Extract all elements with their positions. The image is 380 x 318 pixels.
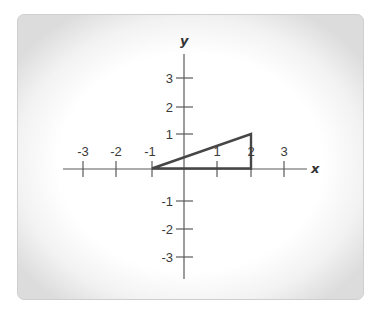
y-tick-label: 2 bbox=[166, 100, 173, 115]
x-tick-label: 2 bbox=[247, 144, 254, 159]
y-tick-label: -1 bbox=[161, 194, 173, 209]
y-tick-label: 3 bbox=[166, 71, 173, 86]
x-tick-label: 3 bbox=[280, 144, 287, 159]
x-tick-label: -2 bbox=[110, 144, 122, 159]
x-tick-label: 1 bbox=[213, 144, 220, 159]
x-tick-label: -3 bbox=[77, 144, 89, 159]
x-axis-label: x bbox=[310, 161, 320, 176]
y-tick-label: -2 bbox=[161, 222, 173, 237]
x-tick-label: -1 bbox=[144, 144, 156, 159]
y-tick-label: 1 bbox=[166, 127, 173, 142]
coordinate-plane: -3 -2 -1 1 2 3 3 2 1 -1 -2 -3 x y bbox=[0, 0, 380, 318]
y-tick-label: -3 bbox=[161, 250, 173, 265]
y-axis-label: y bbox=[180, 33, 189, 48]
